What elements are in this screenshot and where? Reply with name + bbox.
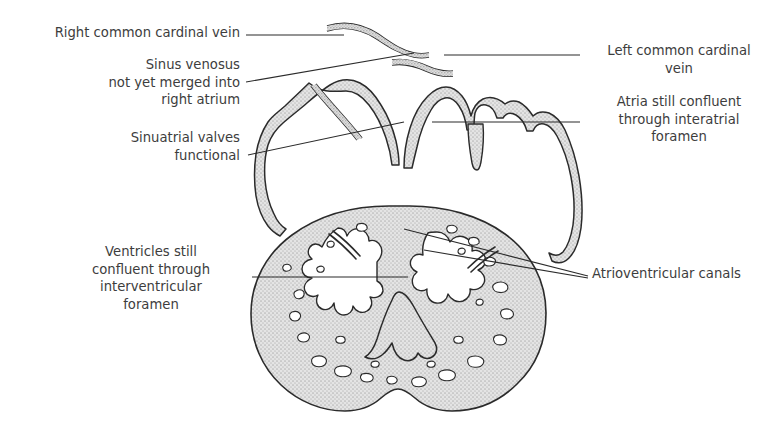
label-right-common-cardinal-vein: Right common cardinal vein [14, 24, 240, 42]
label-left-common-cardinal-vein: Left common cardinal vein [586, 42, 772, 77]
cardinal-veins [327, 23, 453, 76]
ventricles [251, 206, 546, 411]
label-atrioventricular-canals: Atrioventricular canals [592, 265, 780, 283]
label-sinuatrial-valves: Sinuatrial valves functional [6, 129, 240, 164]
septum-primum [468, 124, 483, 170]
label-atria-confluent: Atria still confluent through interatria… [586, 93, 772, 146]
leader-sinus-venosus [246, 53, 414, 82]
figure-canvas: Right common cardinal vein Sinus venosus… [0, 0, 781, 433]
label-sinus-venosus: Sinus venosus not yet merged into right … [14, 56, 240, 109]
label-ventricles-confluent: Ventricles still confluent through inter… [52, 243, 250, 313]
